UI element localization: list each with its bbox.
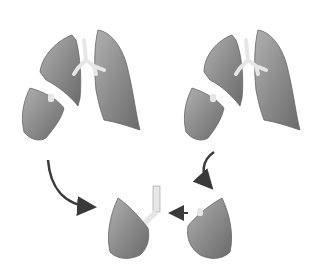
- right-donor-lower-lobe: [184, 88, 224, 140]
- recipient: [108, 186, 231, 258]
- right-donor-lobe-bronchus: [210, 94, 216, 102]
- right-donor-right-lung: [255, 30, 300, 130]
- right-donor-lungs: [184, 30, 300, 140]
- arrow-left-donor-to-recipient: [48, 160, 92, 207]
- recipient-left-lobe: [188, 198, 232, 258]
- recipient-left-lobe-bronchus: [197, 208, 203, 216]
- recipient-trachea: [153, 186, 160, 212]
- diagram-canvas: [0, 0, 324, 279]
- recipient-right-lobe: [108, 198, 148, 258]
- left-donor-lungs: [22, 30, 140, 140]
- left-donor-lobe-bronchus: [48, 94, 54, 102]
- left-donor-right-lung: [95, 30, 140, 130]
- left-donor-lower-lobe: [22, 88, 64, 140]
- arrow-right-donor-to-recipient: [204, 152, 214, 186]
- lung-transplant-diagram: [0, 0, 324, 279]
- arrows: [48, 152, 214, 213]
